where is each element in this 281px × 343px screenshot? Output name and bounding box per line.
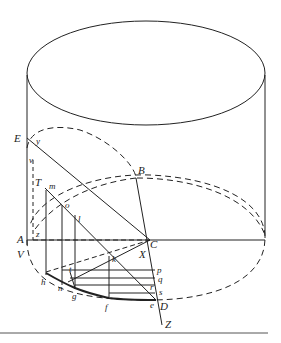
label-q: q bbox=[158, 274, 163, 284]
top-ellipse bbox=[27, 21, 265, 125]
label-o: o bbox=[65, 200, 70, 210]
label-v-upper: V bbox=[17, 248, 25, 260]
tilted-ellipse bbox=[27, 127, 136, 178]
label-s: s bbox=[159, 287, 163, 297]
cylinder-diagram: E y v T m o l A z V B C X k h n t g f p … bbox=[0, 0, 281, 343]
label-z: z bbox=[35, 229, 40, 239]
label-a: A bbox=[16, 233, 24, 245]
label-m: m bbox=[49, 181, 56, 191]
label-n: n bbox=[58, 283, 63, 293]
label-e-lower: e bbox=[150, 300, 154, 310]
label-k: k bbox=[112, 254, 117, 264]
label-z-upper: Z bbox=[165, 318, 172, 330]
tilted-ellipse-right bbox=[137, 178, 265, 235]
label-t-upper: T bbox=[35, 176, 42, 188]
label-v: v bbox=[29, 155, 33, 165]
label-f: f bbox=[105, 302, 109, 312]
label-l: l bbox=[78, 214, 81, 224]
label-e: E bbox=[13, 132, 21, 144]
label-g: g bbox=[72, 291, 77, 301]
label-b: B bbox=[138, 164, 145, 176]
label-t: t bbox=[69, 264, 72, 274]
label-y: y bbox=[35, 136, 40, 146]
label-c: C bbox=[150, 238, 158, 250]
label-d: D bbox=[159, 300, 168, 312]
label-r: r bbox=[150, 282, 154, 292]
label-h: h bbox=[41, 277, 46, 287]
label-x: X bbox=[138, 248, 147, 260]
